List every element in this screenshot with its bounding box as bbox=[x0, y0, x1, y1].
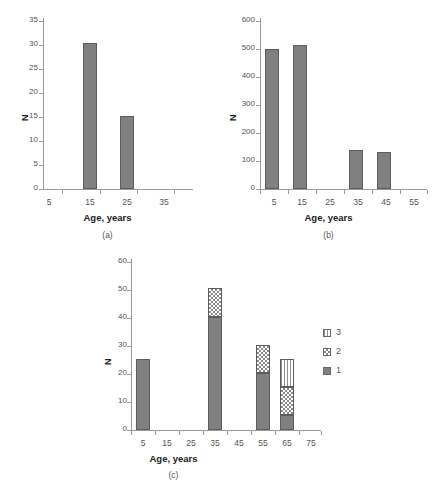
panel-a-xtick-mark bbox=[174, 190, 175, 194]
bar-b-35 bbox=[349, 150, 363, 189]
panel-b-xtick-mark bbox=[427, 190, 428, 194]
panel-c: N 0 10 20 30 40 50 60 5 15 25 35 45 55 6… bbox=[95, 255, 442, 484]
panel-b-xtick-mark bbox=[288, 190, 289, 194]
legend-item-3[interactable]: 3 bbox=[323, 327, 341, 338]
panel-a-ytick-mark bbox=[39, 69, 43, 70]
panel-c-xtick-mark bbox=[299, 431, 300, 435]
panel-b-ytick-300: 300 bbox=[229, 100, 255, 108]
panel-c-xtick-mark bbox=[321, 431, 322, 435]
panel-a-ytick-35: 35 bbox=[20, 16, 38, 24]
panel-b-ytick-400: 400 bbox=[229, 72, 255, 80]
panel-b-ytick-mark bbox=[256, 21, 260, 22]
panel-c-xtick-5: 5 bbox=[130, 439, 156, 448]
panel-b-xtick-25: 25 bbox=[317, 198, 343, 207]
panel-b-xtick-mark bbox=[372, 190, 373, 194]
panel-b-xtick-35: 35 bbox=[345, 198, 371, 207]
bar-b-5 bbox=[265, 49, 279, 189]
legend-item-2[interactable]: 2 bbox=[323, 346, 341, 357]
segment-series-1 bbox=[280, 415, 294, 430]
panel-c-xtick-55: 55 bbox=[250, 439, 276, 448]
legend-label-2: 2 bbox=[336, 347, 341, 356]
panel-c-caption: (c) bbox=[0, 470, 347, 480]
panel-a-ytick-0: 0 bbox=[20, 184, 38, 192]
panel-c-ytick-mark bbox=[127, 402, 131, 403]
panel-c-y-axis-label: N bbox=[103, 359, 113, 366]
panel-b-ytick-mark bbox=[256, 105, 260, 106]
legend-swatch-1-icon bbox=[323, 367, 331, 375]
panel-a-ytick-mark bbox=[39, 45, 43, 46]
panel-a-ytick-mark bbox=[39, 21, 43, 22]
panel-a-ytick-25: 25 bbox=[20, 64, 38, 72]
panel-c-ytick-mark bbox=[127, 346, 131, 347]
legend-swatch-3-icon bbox=[323, 329, 331, 337]
panel-c-x-axis-label: Age, years bbox=[0, 453, 347, 464]
segment-series-1 bbox=[208, 317, 222, 430]
panel-a-ytick-30: 30 bbox=[20, 40, 38, 48]
panel-a-ytick-15: 15 bbox=[20, 112, 38, 120]
panel-c-ytick-50: 50 bbox=[109, 285, 127, 293]
stacked-bar-c-55 bbox=[256, 345, 270, 430]
panel-c-xtick-35: 35 bbox=[202, 439, 228, 448]
legend-label-1: 1 bbox=[336, 366, 341, 375]
panel-c-xtick-mark bbox=[131, 431, 132, 435]
panel-c-xtick-mark bbox=[155, 431, 156, 435]
panel-a-xtick-15: 15 bbox=[77, 198, 103, 207]
panel-a-ytick-mark bbox=[39, 93, 43, 94]
legend-swatch-2-icon bbox=[323, 348, 331, 356]
panel-b-y-axis-label: N bbox=[228, 115, 238, 122]
panel-c-xtick-mark bbox=[275, 431, 276, 435]
panel-b-xtick-mark bbox=[344, 190, 345, 194]
panel-c-legend: 3 2 1 bbox=[323, 327, 373, 379]
panel-a-xtick-35: 35 bbox=[151, 198, 177, 207]
panel-c-xtick-mark bbox=[251, 431, 252, 435]
stacked-bar-c-65 bbox=[280, 359, 294, 430]
panel-c-x-axis bbox=[131, 430, 321, 431]
panel-b-ytick-mark bbox=[256, 77, 260, 78]
panel-c-ytick-20: 20 bbox=[109, 369, 127, 377]
panel-a-ytick-mark bbox=[39, 141, 43, 142]
panel-c-ytick-30: 30 bbox=[109, 341, 127, 349]
panel-b-xtick-15: 15 bbox=[289, 198, 315, 207]
panel-c-ytick-40: 40 bbox=[109, 313, 127, 321]
panel-a-x-axis bbox=[43, 189, 193, 190]
bar-a-25 bbox=[120, 116, 134, 189]
panel-b-ytick-mark bbox=[256, 133, 260, 134]
panel-a-xtick-mark bbox=[62, 190, 63, 194]
panel-c-xtick-mark bbox=[203, 431, 204, 435]
panel-b-xtick-45: 45 bbox=[373, 198, 399, 207]
panel-c-xtick-mark bbox=[227, 431, 228, 435]
panel-a-x-axis-label: Age, years bbox=[0, 212, 215, 223]
panel-b-ytick-mark bbox=[256, 49, 260, 50]
segment-series-2 bbox=[208, 288, 222, 317]
panel-c-ytick-60: 60 bbox=[109, 257, 127, 265]
bar-b-15 bbox=[293, 45, 307, 189]
panel-b-xtick-mark bbox=[400, 190, 401, 194]
panel-a-xtick-25: 25 bbox=[114, 198, 140, 207]
segment-series-1 bbox=[136, 359, 150, 430]
panel-b-xtick-mark bbox=[316, 190, 317, 194]
panel-b-caption: (b) bbox=[215, 230, 442, 240]
figure-root: { "figure": { "panels": [ { "caption": "… bbox=[0, 0, 442, 484]
panel-b-ytick-100: 100 bbox=[229, 156, 255, 164]
panel-b-ytick-500: 500 bbox=[229, 44, 255, 52]
panel-c-ytick-mark bbox=[127, 374, 131, 375]
panel-c-xtick-mark bbox=[179, 431, 180, 435]
panel-c-y-axis bbox=[131, 259, 132, 431]
panel-a-ytick-10: 10 bbox=[20, 136, 38, 144]
panel-b-xtick-mark bbox=[260, 190, 261, 194]
legend-item-1[interactable]: 1 bbox=[323, 365, 341, 376]
panel-a-ytick-mark bbox=[39, 189, 43, 190]
panel-b-ytick-200: 200 bbox=[229, 128, 255, 136]
panel-a-xtick-mark bbox=[137, 190, 138, 194]
panel-c-ytick-mark bbox=[127, 262, 131, 263]
panel-c-xtick-25: 25 bbox=[178, 439, 204, 448]
bar-a-15 bbox=[83, 43, 97, 189]
panel-a-ytick-20: 20 bbox=[20, 88, 38, 96]
panel-b-xtick-5: 5 bbox=[261, 198, 287, 207]
panel-b-xtick-55: 55 bbox=[401, 198, 427, 207]
panel-a-ytick-mark bbox=[39, 117, 43, 118]
panel-a-xtick-5: 5 bbox=[36, 198, 62, 207]
panel-c-ytick-10: 10 bbox=[109, 397, 127, 405]
panel-c-xtick-45: 45 bbox=[226, 439, 252, 448]
panel-c-ytick-mark bbox=[127, 318, 131, 319]
